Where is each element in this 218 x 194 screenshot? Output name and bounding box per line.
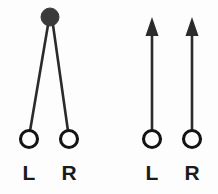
left-panel-right-ear-label: R xyxy=(61,161,76,184)
right-panel-left-ear-label: L xyxy=(146,161,159,184)
left-panel: L R xyxy=(21,8,78,184)
right-panel-left-ear-circle xyxy=(144,131,161,148)
binaural-cue-diagram: L R L R xyxy=(0,0,218,194)
right-panel: L R xyxy=(144,17,201,184)
arrow-right-ear-head-icon xyxy=(186,17,199,36)
left-panel-left-ear-circle xyxy=(21,131,38,148)
right-panel-right-ear-circle xyxy=(184,131,201,148)
left-panel-left-ear-label: L xyxy=(23,161,36,184)
right-panel-right-ear-label: R xyxy=(184,161,199,184)
path-to-right-ear-line xyxy=(53,25,68,131)
left-panel-right-ear-circle xyxy=(61,131,78,148)
arrow-left-ear-head-icon xyxy=(146,17,159,36)
sound-source-dot xyxy=(41,8,59,26)
figure-root: L R L R xyxy=(0,0,218,194)
path-to-left-ear-line xyxy=(30,25,48,131)
